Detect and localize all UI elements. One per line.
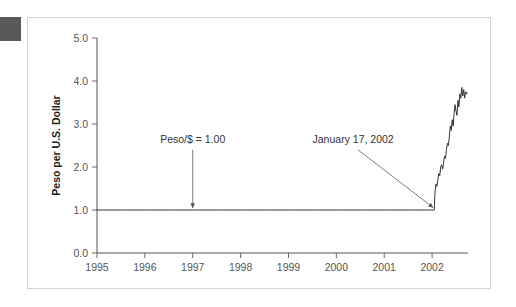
x-tick-label: 1998 bbox=[229, 261, 253, 273]
x-tick-label: 1995 bbox=[85, 261, 109, 273]
y-tick-label: 2.0 bbox=[73, 161, 88, 173]
y-axis-title: Peso per U.S. Dollar bbox=[50, 95, 62, 195]
x-tick-label: 1996 bbox=[133, 261, 157, 273]
x-tick-label: 2002 bbox=[420, 261, 444, 273]
y-axis-tick-labels: 0.01.02.03.04.05.0 bbox=[73, 32, 88, 259]
annotation-label-peso-parity: Peso/$ = 1.00 bbox=[160, 133, 225, 145]
axis-tick-marks bbox=[92, 38, 432, 258]
plot-area: 0.01.02.03.04.05.0 199519961997199819992… bbox=[0, 0, 516, 307]
y-tick-label: 3.0 bbox=[73, 118, 88, 130]
y-tick-label: 0.0 bbox=[73, 247, 88, 259]
chart-page: 0.01.02.03.04.05.0 199519961997199819992… bbox=[0, 0, 516, 307]
x-tick-label: 1997 bbox=[181, 261, 205, 273]
line-chart: 0.01.02.03.04.05.0 199519961997199819992… bbox=[0, 0, 516, 307]
y-tick-label: 1.0 bbox=[73, 204, 88, 216]
x-tick-label: 2001 bbox=[373, 261, 397, 273]
x-tick-label: 2000 bbox=[325, 261, 349, 273]
chart-annotations: Peso/$ = 1.00January 17, 2002 bbox=[160, 133, 433, 208]
annotation-arrow-devaluation-date bbox=[358, 150, 433, 208]
y-tick-label: 5.0 bbox=[73, 32, 88, 44]
annotation-label-devaluation-date: January 17, 2002 bbox=[313, 133, 394, 145]
y-tick-label: 4.0 bbox=[73, 75, 88, 87]
x-axis-tick-labels: 19951996199719981999200020012002 bbox=[85, 261, 444, 273]
x-tick-label: 1999 bbox=[277, 261, 301, 273]
